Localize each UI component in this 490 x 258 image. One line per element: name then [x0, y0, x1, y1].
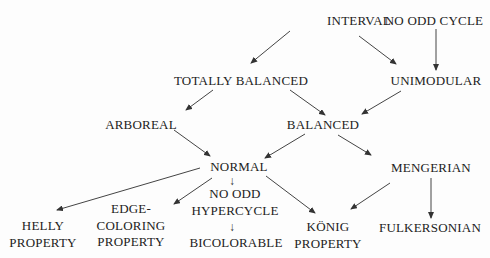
node-mengerian: MENGERIAN: [391, 160, 471, 177]
node-fulkersonian-label: FULKERSONIAN: [379, 220, 481, 237]
node-helly-property: HELLY PROPERTY: [9, 218, 76, 251]
edge-balanced-normal: [265, 134, 305, 158]
node-balanced: BALANCED: [287, 117, 359, 134]
node-no-odd-hypercycle: NO ODD HYPERCYCLE: [191, 186, 278, 219]
edge-arboreal-normal: [174, 130, 210, 156]
node-edge-coloring-line3: PROPERTY: [97, 234, 166, 251]
node-mengerian-label: MENGERIAN: [391, 160, 471, 177]
node-totally-balanced: TOTALLY BALANCED: [174, 73, 308, 90]
node-edge-coloring-line1: EDGE-: [97, 201, 166, 218]
edge-balanced-mengerian: [338, 135, 371, 155]
edge-totally-balanced-arboreal: [186, 90, 213, 110]
node-konig-line2: PROPERTY: [294, 235, 361, 252]
node-fulkersonian: FULKERSONIAN: [379, 220, 481, 237]
node-no-odd-cycle-label: NO ODD CYCLE: [385, 13, 483, 30]
edge-totally-balanced-balanced: [290, 90, 325, 115]
edge-interval-totally-balanced: [251, 31, 290, 63]
node-interval: INTERVAL: [327, 13, 391, 30]
node-no-odd-cycle: NO ODD CYCLE: [385, 13, 483, 30]
node-interval-label: INTERVAL: [327, 13, 391, 30]
node-no-odd-hypercycle-line1: NO ODD: [191, 186, 278, 203]
node-arboreal: ARBOREAL: [105, 117, 177, 134]
arrow-down-glyph: ↓: [229, 220, 235, 234]
node-bicolorable: BICOLORABLE: [189, 235, 282, 252]
node-totally-balanced-label: TOTALLY BALANCED: [174, 73, 308, 90]
node-normal: NORMAL: [210, 159, 268, 176]
node-no-odd-hypercycle-line2: HYPERCYCLE: [191, 202, 278, 219]
edge-unimodular-balanced: [362, 91, 401, 114]
node-konig-line1: KÖNIG: [294, 219, 361, 236]
node-balanced-label: BALANCED: [287, 117, 359, 134]
node-helly-line2: PROPERTY: [9, 234, 76, 251]
edge-interval-unimodular: [359, 36, 396, 64]
arrow-down-icon: ↓: [229, 220, 235, 234]
node-helly-line1: HELLY: [9, 218, 76, 235]
diagram-canvas: INTERVAL NO ODD CYCLE TOTALLY BALANCED U…: [0, 0, 490, 258]
node-edge-coloring-line2: COLORING: [97, 218, 166, 235]
node-unimodular: UNIMODULAR: [391, 73, 482, 90]
node-edge-coloring-property: EDGE- COLORING PROPERTY: [97, 201, 166, 251]
edge-mengerian-konig: [351, 183, 390, 209]
node-unimodular-label: UNIMODULAR: [391, 73, 482, 90]
node-arboreal-label: ARBOREAL: [105, 117, 177, 134]
node-bicolorable-label: BICOLORABLE: [189, 235, 282, 252]
node-konig-property: KÖNIG PROPERTY: [294, 219, 361, 252]
node-normal-label: NORMAL: [210, 159, 268, 176]
